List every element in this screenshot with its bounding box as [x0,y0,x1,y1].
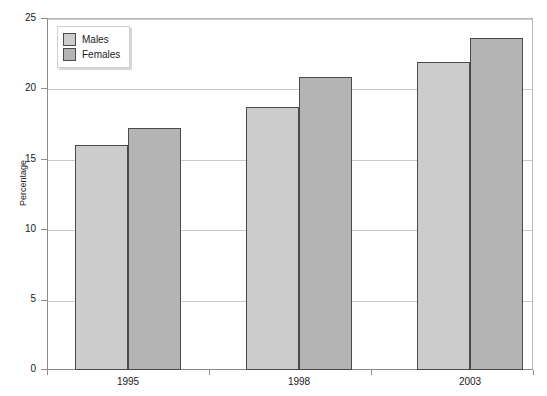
x-tick-left-edge [47,370,48,375]
y-axis-label-10: 10 [25,224,36,234]
y-axis-label-0: 0 [30,364,36,374]
y-axis-title: Percentage [18,143,28,223]
y-tick-15 [41,159,47,160]
y-tick-5 [41,300,47,301]
bar-females-2003 [470,38,523,370]
legend-item-females: Females [63,47,120,62]
y-tick-10 [41,229,47,230]
y-axis-label-25: 25 [25,13,36,23]
legend-swatch-males-icon [63,33,76,46]
y-tick-20 [41,88,47,89]
x-axis-label-1998: 1998 [269,376,329,387]
legend-label-females: Females [82,49,120,61]
bar-females-1998 [299,77,352,370]
x-axis-label-2003: 2003 [440,376,500,387]
bar-males-1995 [75,145,128,370]
y-axis-line [47,18,48,370]
y-axis-label-20: 20 [25,83,36,93]
legend-label-males: Males [82,34,109,46]
x-axis-label-1995: 1995 [98,376,158,387]
x-tick-1995-1998 [209,370,210,375]
bar-males-1998 [246,107,299,370]
x-tick-1998-2003 [371,370,372,375]
legend: Males Females [57,26,130,68]
y-tick-25 [41,18,47,19]
legend-swatch-females-icon [63,48,76,61]
gridline-25 [48,19,532,20]
bar-males-2003 [417,62,470,370]
legend-item-males: Males [63,32,120,47]
bar-chart: 25 20 15 10 5 0 Percentage 1995 1998 200… [0,0,547,396]
y-axis-label-5: 5 [30,294,36,304]
x-tick-right-edge [533,370,534,375]
bar-females-1995 [128,128,181,370]
